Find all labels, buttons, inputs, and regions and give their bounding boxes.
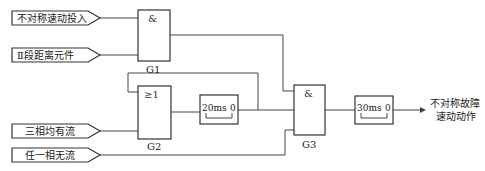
logic-diagram: 不对称速动投入 Ⅱ段距离元件 三相均有流 任一相无流 [0, 0, 485, 171]
input-label: 任一相无流 [25, 149, 75, 161]
input-any-phase-no-current: 任一相无流 [12, 148, 100, 162]
input-asymmetric-fast-enable: 不对称速动投入 [12, 11, 100, 25]
timer-30ms-off-delay: 0 [385, 103, 391, 113]
timer-30ms-on-delay: 30ms [357, 103, 382, 113]
gate-g3: & G3 [294, 85, 325, 150]
timer-20ms-on-delay: 20ms [202, 103, 227, 113]
gate-g2-name: G2 [147, 141, 161, 152]
gate-g1-symbol: & [148, 13, 157, 24]
output-label-line2: 速动动作 [436, 111, 476, 122]
gate-g2-symbol: ≥1 [144, 89, 159, 100]
wire-g1-g3 [170, 35, 294, 91]
input-three-phase-current: 三相均有流 [12, 124, 100, 138]
input-zone2-distance: Ⅱ段距离元件 [12, 48, 100, 62]
wire-in4-g3 [100, 130, 294, 155]
output-asymmetric-fault-fast-trip: 不对称故障 速动动作 [430, 97, 480, 122]
gate-g3-symbol: & [304, 88, 313, 99]
gate-g3-name: G3 [302, 139, 316, 150]
input-label: 三相均有流 [25, 125, 75, 137]
arrow-head-icon [420, 107, 426, 113]
timer-20ms-off-delay: 0 [230, 103, 236, 113]
timer-30ms: 30ms 0 [355, 96, 393, 124]
input-label: 不对称速动投入 [17, 12, 87, 24]
output-label-line1: 不对称故障 [430, 97, 480, 109]
gate-g2: ≥1 G2 [138, 86, 171, 152]
gate-g1: & G1 [138, 10, 170, 75]
timer-20ms: 20ms 0 [200, 95, 238, 124]
input-label: Ⅱ段距离元件 [17, 49, 74, 61]
gate-g1-name: G1 [146, 64, 160, 75]
